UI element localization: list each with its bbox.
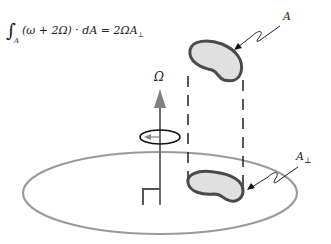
equation-body: (ω + 2Ω) · dA = 2ΩA	[22, 24, 138, 37]
projected-area-perp: ⊥	[304, 156, 312, 165]
projected-area-blob	[188, 171, 243, 201]
rotation-arrowhead	[144, 134, 151, 140]
integral-subscript: A	[14, 37, 19, 45]
omega-label: Ω	[154, 70, 164, 84]
area-pointer-arrowhead	[234, 43, 242, 50]
area-pointer-squiggle	[238, 26, 280, 47]
projected-area-pointer-arrowhead	[247, 183, 255, 190]
diagram-canvas: ∫A(ω + 2Ω) · dA = 2ΩA⊥ Ω A A⊥	[0, 0, 331, 244]
area-label: A	[283, 10, 291, 23]
projected-area-label: A⊥	[296, 150, 311, 165]
equation-perp-subscript: ⊥	[138, 31, 145, 39]
axis-base-bracket	[143, 189, 160, 205]
projected-area-letter: A	[296, 150, 304, 163]
omega-axis-arrowhead	[154, 89, 166, 108]
vorticity-flux-equation: ∫A(ω + 2Ω) · dA = 2ΩA⊥	[6, 16, 144, 39]
surface-area-blob	[190, 41, 242, 81]
